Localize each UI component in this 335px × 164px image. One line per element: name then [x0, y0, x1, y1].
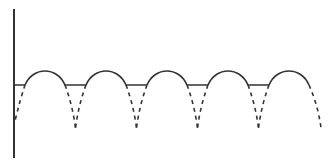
output-waveform — [14, 71, 309, 85]
clipped-waveform-diagram — [0, 0, 335, 164]
clipped-portion — [15, 85, 321, 128]
